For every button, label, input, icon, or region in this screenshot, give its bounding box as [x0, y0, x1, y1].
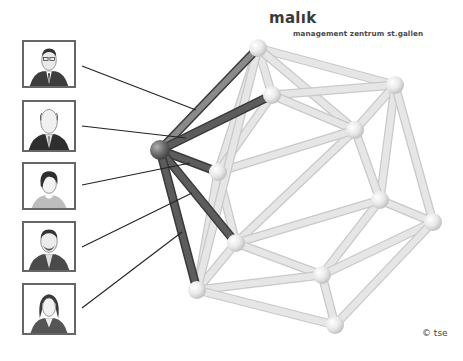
connector-line-3: [82, 163, 190, 185]
woman-portrait-icon: [24, 164, 74, 208]
portrait-4: [22, 221, 76, 272]
vertex-F: [209, 163, 227, 181]
portrait-1: [22, 40, 76, 88]
connector-lines-group: [82, 66, 196, 308]
edge-KL-highlight: [197, 290, 335, 325]
vertex-D: [386, 76, 404, 94]
diagram-canvas: malık management zentrum st.gallen: [0, 0, 463, 361]
company-subtitle: management zentrum st.gallen: [293, 29, 423, 38]
vertex-I: [227, 234, 245, 252]
bald-man-portrait-icon: [24, 102, 74, 150]
edge-IJ-highlight: [236, 243, 322, 275]
edge-EG-highlight: [355, 130, 380, 200]
woman-long-hair-portrait-icon: [24, 285, 74, 333]
bearded-man-portrait-icon: [24, 223, 74, 270]
vertex-K: [188, 281, 206, 299]
vertex-J: [313, 266, 331, 284]
vertex-C: [263, 86, 281, 104]
portrait-5: [22, 283, 76, 335]
vertex-B: [249, 39, 267, 57]
man-portrait-icon: [24, 42, 74, 86]
connector-line-5: [82, 232, 182, 308]
edge-JK-highlight: [197, 275, 322, 290]
connector-line-2: [82, 126, 186, 138]
vertex-H: [424, 213, 442, 231]
edge-DH-highlight: [395, 85, 433, 222]
vertex-A: [150, 140, 170, 160]
connector-line-1: [82, 66, 196, 110]
vertex-G: [371, 191, 389, 209]
portrait-3: [22, 162, 76, 210]
portrait-2: [22, 100, 76, 152]
vertex-E: [346, 121, 364, 139]
copyright-label: © tse: [422, 328, 448, 338]
company-logo: malık: [269, 9, 317, 27]
vertex-L: [326, 316, 344, 334]
